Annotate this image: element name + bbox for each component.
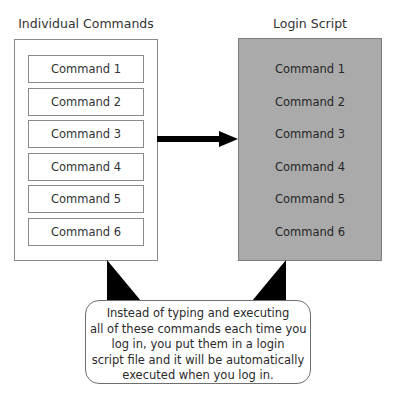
individual-command-1: Command 1 (28, 55, 144, 83)
callout-pointer-left-icon (106, 260, 142, 302)
callout-line-2: all of these commands each time you (90, 322, 306, 338)
individual-command-3: Command 3 (28, 120, 144, 148)
script-command-4: Command 4 (239, 153, 381, 181)
explanation-callout: Instead of typing and executing all of t… (85, 300, 311, 384)
script-command-6: Command 6 (239, 218, 381, 246)
login-script-panel: Command 1 Command 2 Command 3 Command 4 … (238, 38, 382, 261)
individual-command-6: Command 6 (28, 218, 144, 246)
script-command-3: Command 3 (239, 120, 381, 148)
individual-command-5: Command 5 (28, 185, 144, 213)
callout-line-3: log in, you put them in a login (90, 337, 306, 353)
script-command-2: Command 2 (239, 88, 381, 116)
right-arrow-icon (157, 131, 239, 147)
script-command-5: Command 5 (239, 185, 381, 213)
individual-commands-title: Individual Commands (14, 16, 158, 31)
login-script-title: Login Script (238, 16, 382, 31)
script-command-1: Command 1 (239, 55, 381, 83)
individual-commands-panel: Command 1 Command 2 Command 3 Command 4 … (14, 39, 158, 261)
callout-line-1: Instead of typing and executing (90, 306, 306, 322)
callout-line-4: script file and it will be automatically (90, 353, 306, 369)
individual-command-2: Command 2 (28, 88, 144, 116)
callout-line-5: executed when you log in. (90, 368, 306, 384)
callout-pointer-right-icon (251, 260, 287, 302)
individual-command-4: Command 4 (28, 153, 144, 181)
